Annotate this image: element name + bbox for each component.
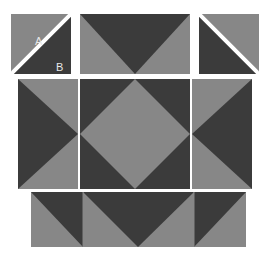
top-right-unit-shape [199, 14, 259, 74]
middle-left-unit [18, 79, 78, 189]
bottom-row-unit-shape [31, 192, 246, 247]
top-center-unit [80, 14, 190, 74]
center-unit-shape [80, 79, 190, 189]
top-left-unit-shape [11, 14, 71, 74]
middle-right-unit-shape [192, 79, 252, 189]
bottom-row-unit [31, 192, 246, 247]
top-left-unit: A B [11, 14, 71, 74]
quilt-block-diagram: A B [0, 0, 271, 256]
middle-left-unit-shape [18, 79, 78, 189]
center-unit [80, 79, 190, 189]
top-right-unit [199, 14, 259, 74]
middle-right-unit [192, 79, 252, 189]
top-center-unit-shape [80, 14, 190, 74]
